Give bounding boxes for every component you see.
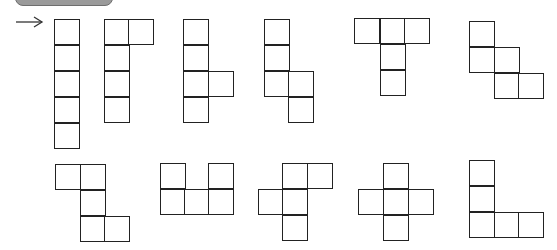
net-square	[183, 19, 209, 45]
net-square	[383, 215, 409, 241]
net-square	[469, 186, 495, 212]
net-square	[160, 189, 186, 215]
net-square	[208, 163, 234, 189]
net-square	[183, 97, 209, 123]
net-square	[518, 212, 544, 238]
net-square	[104, 19, 130, 45]
right-arrow-icon	[15, 13, 45, 29]
net-square	[494, 47, 520, 73]
net-square	[494, 73, 520, 99]
net-square	[184, 189, 210, 215]
net-square	[380, 70, 406, 96]
net-square	[518, 73, 544, 99]
net-square	[54, 71, 80, 97]
net-square	[183, 45, 209, 71]
net-square	[104, 71, 130, 97]
net-square	[104, 216, 130, 242]
net-square	[282, 215, 308, 241]
net-square	[104, 45, 130, 71]
net-square	[469, 160, 495, 186]
net-square	[469, 21, 495, 47]
net-square	[80, 190, 106, 216]
net-square	[404, 18, 430, 44]
net-square	[469, 47, 495, 73]
net-square	[160, 163, 186, 189]
net-square	[494, 212, 520, 238]
net-square	[307, 163, 333, 189]
net-square	[208, 71, 234, 97]
net-square	[358, 189, 384, 215]
net-square	[380, 18, 406, 44]
net-square	[383, 189, 409, 215]
net-square	[354, 18, 380, 44]
net-square	[469, 212, 495, 238]
net-square	[288, 97, 314, 123]
net-square	[282, 189, 308, 215]
net-square	[264, 71, 290, 97]
section-label-tab	[15, 0, 113, 6]
net-square	[128, 19, 154, 45]
net-square	[54, 123, 80, 149]
net-square	[104, 97, 130, 123]
net-square	[282, 163, 308, 189]
net-square	[288, 71, 314, 97]
net-square	[264, 19, 290, 45]
net-square	[55, 164, 81, 190]
net-square	[183, 71, 209, 97]
net-square	[380, 44, 406, 70]
net-square	[54, 45, 80, 71]
net-square	[383, 163, 409, 189]
net-square	[408, 189, 434, 215]
net-square	[208, 189, 234, 215]
net-square	[80, 216, 106, 242]
net-square	[54, 19, 80, 45]
net-square	[54, 97, 80, 123]
net-square	[258, 189, 284, 215]
net-square	[264, 45, 290, 71]
net-square	[80, 164, 106, 190]
